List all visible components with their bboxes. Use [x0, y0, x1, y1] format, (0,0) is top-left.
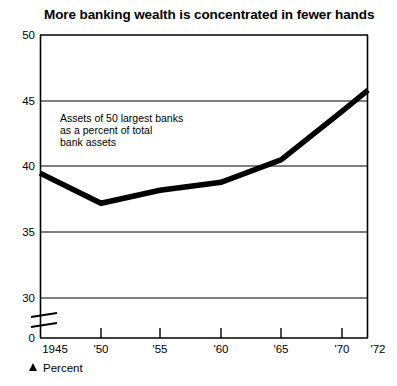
axis-break-marks	[31, 313, 57, 327]
series-annotation-line-1: Assets of 50 largest banks	[60, 112, 183, 124]
x-axis-labels: 1945 '50 '55 '60 '65 '70 '72	[42, 343, 385, 355]
series-annotation: Assets of 50 largest banks as a percent …	[60, 112, 183, 148]
y-tick-label-40: 40	[22, 160, 35, 172]
y-axis-labels: 50 45 40 35 30 0	[22, 29, 35, 344]
series-annotation-line-2: as a percent of total	[60, 124, 152, 136]
gridlines	[40, 35, 368, 298]
x-axis-ticks	[101, 328, 342, 338]
footnote-label: Percent	[43, 362, 83, 374]
x-tick-label-1960: '60	[214, 343, 229, 355]
y-tick-label-0: 0	[29, 332, 35, 344]
x-tick-label-1972: '72	[371, 343, 386, 355]
series-annotation-line-3: bank assets	[60, 136, 116, 148]
chart-container: More banking wealth is concentrated in f…	[0, 0, 397, 386]
triangle-up-icon	[29, 363, 37, 371]
x-tick-label-1965: '65	[274, 343, 289, 355]
x-tick-label-1970: '70	[335, 343, 350, 355]
axis-break-mark-upper	[31, 313, 57, 317]
y-tick-label-30: 30	[22, 292, 35, 304]
chart-plot-area: 50 45 40 35 30 0 1945 '50 '55 '60 '65 '7…	[0, 0, 397, 386]
axis-break-mark-lower	[31, 323, 57, 327]
y-tick-label-35: 35	[22, 226, 35, 238]
x-tick-label-1950: '50	[94, 343, 109, 355]
x-tick-label-1945: 1945	[42, 343, 68, 355]
y-tick-label-45: 45	[22, 95, 35, 107]
x-tick-label-1955: '55	[153, 343, 168, 355]
footnote: Percent	[29, 362, 83, 374]
y-tick-label-50: 50	[22, 29, 35, 41]
